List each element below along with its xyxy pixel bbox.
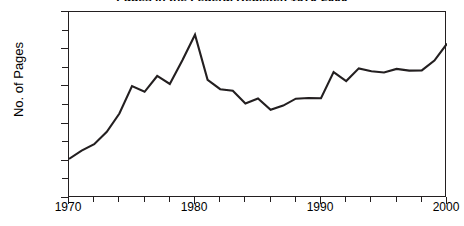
x-tick-mark <box>68 197 69 204</box>
x-tick-mark <box>194 197 195 204</box>
y-tick-mark <box>61 123 68 124</box>
plot-area <box>68 11 446 197</box>
chart-figure: Pages in the Federal Register, 1970-2000… <box>0 0 464 226</box>
y-tick-mark <box>61 85 68 86</box>
y-tick-mark <box>61 197 68 198</box>
y-tick-mark <box>61 48 68 49</box>
chart-title: Pages in the Federal Register, 1970-2000 <box>0 0 464 1</box>
x-tick-mark <box>446 197 447 204</box>
y-tick-mark <box>61 160 68 161</box>
data-line-series <box>69 12 447 198</box>
series-polyline <box>69 35 447 159</box>
y-axis-title: No. of Pages <box>11 5 26 155</box>
x-tick-mark <box>320 197 321 204</box>
x-tick-label: 2000 <box>416 200 464 214</box>
y-tick-mark <box>61 11 68 12</box>
